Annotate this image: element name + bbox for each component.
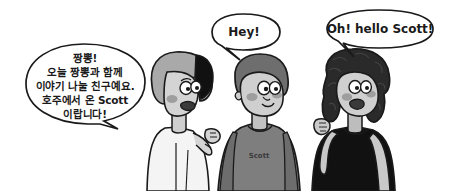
- left-character-mouth: [181, 102, 195, 111]
- scott-ear: [235, 92, 241, 100]
- left-character-cheek: [167, 95, 178, 103]
- comic-canvas: Scott: [0, 0, 449, 191]
- right-character-eye-left: [349, 81, 361, 94]
- bubble-hey-text: Hey!: [228, 25, 259, 39]
- left-character-pupil-left: [186, 87, 190, 91]
- comic-illustration: Scott: [0, 0, 449, 191]
- right-character-pupil-left: [355, 86, 359, 90]
- scott-eye-left: [258, 81, 270, 95]
- bubble-korean-line-2: 오늘 짱뽕과 함께: [47, 66, 123, 78]
- scott-pupil-left: [264, 87, 268, 91]
- bubble-hello-text: Oh! hello Scott!: [327, 22, 434, 36]
- bubble-korean-line-3: 이야기 나눌 친구예요.: [36, 80, 135, 92]
- left-character-pupil-right: [195, 86, 199, 90]
- scott-sweater-label: Scott: [249, 152, 270, 160]
- right-character-pupil-right: [365, 86, 369, 90]
- right-character-cheek-left: [342, 93, 352, 101]
- bubble-korean-line-4: 호주에서 온 Scott: [42, 94, 128, 106]
- scott-cheek-left: [247, 93, 258, 101]
- right-character-mouth: [350, 99, 364, 109]
- left-character-hand: [205, 129, 220, 143]
- scott-pupil-right: [274, 87, 278, 91]
- bubble-korean-line-1: 짱뽕!: [73, 52, 97, 64]
- bubble-korean-line-5: 이랍니다!: [63, 108, 107, 120]
